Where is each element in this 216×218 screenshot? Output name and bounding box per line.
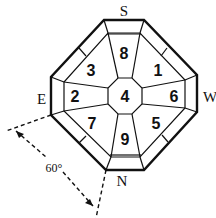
direction-east-label: E xyxy=(37,91,46,107)
cell-center-number: 4 xyxy=(121,88,130,105)
cell-bottom-left-number: 7 xyxy=(88,115,97,132)
angle-label: 60° xyxy=(46,161,63,175)
cell-right-number: 6 xyxy=(170,88,179,105)
direction-west-label: W xyxy=(203,89,216,105)
cell-top-number: 8 xyxy=(120,45,129,62)
cell-left-number: 2 xyxy=(71,88,80,105)
octagon-diagram: 8 1 6 5 9 7 2 3 4 S W N E 60° xyxy=(0,0,216,218)
cell-top-right-number: 1 xyxy=(154,62,163,79)
cell-bottom-right-number: 5 xyxy=(152,115,161,132)
cell-top-left-number: 3 xyxy=(87,62,96,79)
arrowhead-lower-icon xyxy=(85,199,93,206)
cell-bottom-number: 9 xyxy=(121,131,130,148)
direction-south-label: S xyxy=(120,3,128,19)
direction-north-label: N xyxy=(117,173,128,189)
